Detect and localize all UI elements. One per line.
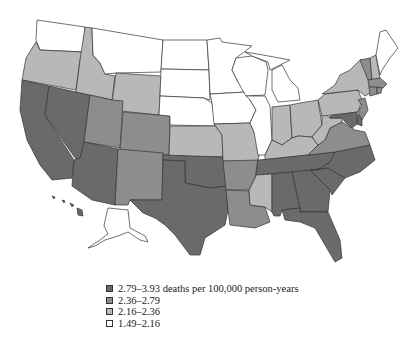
state-IN xyxy=(272,105,292,145)
legend-item-dark: 2.79–3.93 deaths per 100,000 person-year… xyxy=(106,283,299,295)
state-SD xyxy=(160,69,210,100)
legend-item-light: 2.16–2.36 xyxy=(106,306,299,318)
legend-label-white: 1.49–2.16 xyxy=(118,318,160,330)
legend-label-dark: 2.79–3.93 deaths per 100,000 person-year… xyxy=(118,283,299,295)
state-FL xyxy=(282,208,342,262)
state-HI xyxy=(52,196,83,216)
state-ND xyxy=(161,40,209,70)
legend-swatch-dark xyxy=(106,285,113,292)
legend-label-light: 2.16–2.36 xyxy=(118,306,160,318)
state-ME xyxy=(376,30,398,75)
legend: 2.79–3.93 deaths per 100,000 person-year… xyxy=(106,283,299,329)
state-WA xyxy=(36,20,85,52)
legend-label-medium: 2.36–2.79 xyxy=(118,295,160,307)
state-RI xyxy=(377,87,382,94)
legend-item-white: 1.49–2.16 xyxy=(106,318,299,330)
us-choropleth-map xyxy=(0,0,419,270)
state-KS xyxy=(169,126,223,157)
legend-swatch-medium xyxy=(106,297,113,304)
legend-swatch-light xyxy=(106,308,113,315)
state-MT xyxy=(92,28,163,74)
state-MA xyxy=(368,78,387,88)
state-NM xyxy=(115,149,163,205)
state-CT xyxy=(369,87,377,96)
legend-swatch-white xyxy=(106,320,113,327)
state-AK xyxy=(88,208,148,248)
legend-item-medium: 2.36–2.79 xyxy=(106,295,299,307)
state-UT xyxy=(84,95,123,148)
state-CO xyxy=(120,112,170,155)
